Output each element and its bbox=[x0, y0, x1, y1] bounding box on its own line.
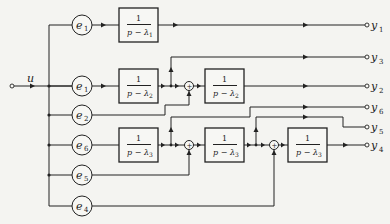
gain-e1-top: e 1 bbox=[72, 15, 92, 35]
summer-1: + bbox=[185, 82, 194, 91]
svg-text:6: 6 bbox=[84, 145, 89, 153]
svg-text:p − λ: p − λ bbox=[127, 28, 149, 37]
gain-e5: e 5 bbox=[72, 165, 92, 185]
block-1-over-p-minus-lambda2-b: 1 p − λ 2 bbox=[205, 69, 244, 103]
svg-text:+: + bbox=[272, 142, 278, 150]
svg-text:5: 5 bbox=[84, 175, 88, 183]
svg-text:e: e bbox=[76, 19, 83, 32]
gain-e6: e 6 bbox=[72, 135, 92, 155]
summer-3: + bbox=[270, 141, 279, 150]
svg-text:p − λ: p − λ bbox=[127, 89, 149, 98]
svg-text:1: 1 bbox=[222, 75, 227, 84]
svg-text:p − λ: p − λ bbox=[213, 89, 235, 98]
svg-text:1: 1 bbox=[149, 31, 153, 38]
gain-e1-second: e 1 bbox=[72, 76, 92, 96]
block-1-over-p-minus-lambda3-b: 1 p − λ 3 bbox=[205, 128, 244, 162]
block-diagram: u e 1 1 p − λ 1 y 1 e 1 1 p − λ 2 bbox=[0, 0, 390, 224]
svg-text:3: 3 bbox=[318, 151, 322, 158]
svg-text:1: 1 bbox=[136, 75, 141, 84]
svg-text:e: e bbox=[76, 80, 83, 93]
svg-text:2: 2 bbox=[379, 87, 383, 95]
svg-text:4: 4 bbox=[379, 146, 384, 154]
svg-text:y: y bbox=[370, 80, 378, 93]
output-y2: y 2 bbox=[365, 80, 383, 95]
svg-text:3: 3 bbox=[149, 151, 153, 158]
svg-text:4: 4 bbox=[84, 206, 89, 214]
svg-text:1: 1 bbox=[84, 25, 88, 33]
block-1-over-p-minus-lambda1: 1 p − λ 1 bbox=[119, 8, 158, 42]
svg-text:e: e bbox=[76, 109, 83, 122]
output-y3: y 3 bbox=[365, 51, 383, 66]
svg-text:2: 2 bbox=[84, 115, 88, 123]
svg-text:5: 5 bbox=[379, 128, 383, 136]
output-y4: y 4 bbox=[365, 139, 384, 154]
svg-text:e: e bbox=[76, 200, 83, 213]
svg-text:2: 2 bbox=[235, 92, 239, 99]
svg-text:2: 2 bbox=[149, 92, 153, 99]
svg-text:1: 1 bbox=[136, 134, 141, 143]
svg-text:y: y bbox=[370, 139, 378, 152]
block-1-over-p-minus-lambda3-a: 1 p − λ 3 bbox=[119, 128, 158, 162]
svg-text:6: 6 bbox=[379, 108, 384, 116]
svg-text:p − λ: p − λ bbox=[296, 148, 318, 157]
block-1-over-p-minus-lambda3-c: 1 p − λ 3 bbox=[288, 128, 327, 162]
block-1-over-p-minus-lambda2-a: 1 p − λ 2 bbox=[119, 69, 158, 103]
svg-text:3: 3 bbox=[379, 58, 383, 66]
svg-text:1: 1 bbox=[222, 134, 227, 143]
svg-text:1: 1 bbox=[136, 14, 141, 23]
svg-text:1: 1 bbox=[84, 86, 88, 94]
output-y6: y 6 bbox=[365, 101, 384, 116]
svg-text:p − λ: p − λ bbox=[213, 148, 235, 157]
svg-text:p − λ: p − λ bbox=[127, 148, 149, 157]
svg-text:y: y bbox=[370, 19, 378, 32]
svg-text:1: 1 bbox=[379, 26, 383, 34]
svg-text:y: y bbox=[370, 121, 378, 134]
gain-e4: e 4 bbox=[72, 196, 92, 216]
input-label: u bbox=[27, 72, 34, 85]
svg-text:1: 1 bbox=[305, 134, 310, 143]
output-y5: y 5 bbox=[365, 121, 383, 136]
svg-text:y: y bbox=[370, 101, 378, 114]
summer-2: + bbox=[185, 141, 194, 150]
output-y1: y 1 bbox=[365, 19, 383, 34]
svg-text:e: e bbox=[76, 139, 83, 152]
svg-text:+: + bbox=[187, 83, 193, 91]
svg-text:+: + bbox=[187, 142, 193, 150]
svg-text:y: y bbox=[370, 51, 378, 64]
gain-e2: e 2 bbox=[72, 105, 92, 125]
svg-text:e: e bbox=[76, 169, 83, 182]
svg-text:3: 3 bbox=[235, 151, 239, 158]
